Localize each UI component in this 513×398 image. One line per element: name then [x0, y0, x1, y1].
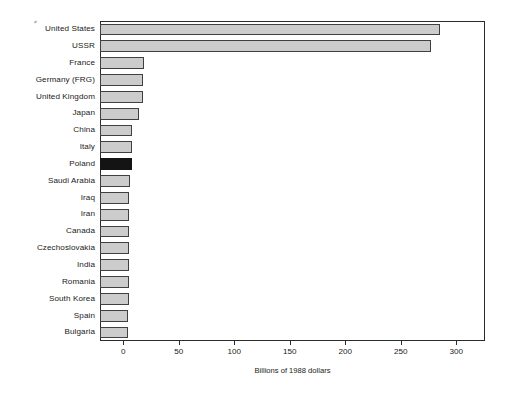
category-label: Japan: [0, 109, 95, 117]
bar: [100, 91, 143, 103]
category-label: France: [0, 59, 95, 67]
x-tick-label: 250: [381, 348, 421, 356]
bar: [100, 125, 132, 137]
category-label: Poland: [0, 160, 95, 168]
x-tick-label: 200: [325, 348, 365, 356]
category-label: Bulgaria: [0, 328, 95, 336]
x-tick-mark: [234, 341, 235, 345]
bar: [100, 259, 129, 271]
category-label: Canada: [0, 227, 95, 235]
x-tick-label: 150: [270, 348, 310, 356]
category-label: Germany (FRG): [0, 76, 95, 84]
bar: [100, 24, 440, 36]
bar: [100, 293, 129, 305]
bar: [100, 40, 431, 52]
bar: [100, 276, 129, 288]
category-label: Romania: [0, 278, 95, 286]
category-label: Iran: [0, 210, 95, 218]
bar: [100, 209, 129, 221]
bar: [100, 57, 144, 69]
bar: [100, 175, 130, 187]
category-label: Czechoslovakia: [0, 244, 95, 252]
bar: [100, 108, 139, 120]
category-label: South Korea: [0, 295, 95, 303]
x-tick-mark: [345, 341, 346, 345]
x-tick-mark: [123, 341, 124, 345]
category-label: Spain: [0, 312, 95, 320]
bar: [100, 310, 128, 322]
bars-layer: [100, 21, 485, 341]
category-label: India: [0, 261, 95, 269]
category-label: USSR: [0, 42, 95, 50]
x-tick-label: 50: [159, 348, 199, 356]
x-tick-mark: [179, 341, 180, 345]
category-label: China: [0, 126, 95, 134]
x-tick-label: 0: [103, 348, 143, 356]
bar: [100, 158, 132, 170]
bar-chart: United StatesUSSRFranceGermany (FRG)Unit…: [0, 0, 513, 398]
bar: [100, 242, 129, 254]
bar: [100, 226, 129, 238]
x-tick-label: 300: [436, 348, 476, 356]
category-label: Iraq: [0, 194, 95, 202]
category-label: United States: [0, 25, 95, 33]
bar: [100, 74, 143, 86]
x-axis-title: Billions of 1988 dollars: [100, 367, 485, 375]
bar: [100, 141, 132, 153]
x-tick-mark: [456, 341, 457, 345]
bar: [100, 327, 128, 339]
category-label: United Kingdom: [0, 93, 95, 101]
bar: [100, 192, 129, 204]
category-axis-labels: United StatesUSSRFranceGermany (FRG)Unit…: [0, 21, 95, 341]
x-tick-mark: [401, 341, 402, 345]
category-label: Saudi Arabia: [0, 177, 95, 185]
category-label: Italy: [0, 143, 95, 151]
x-tick-mark: [290, 341, 291, 345]
x-tick-label: 100: [214, 348, 254, 356]
